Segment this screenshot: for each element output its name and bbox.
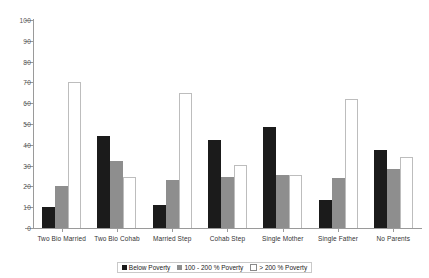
legend-swatch-icon <box>177 265 182 270</box>
bar-group: Married Step <box>145 20 200 228</box>
legend-box: Below Poverty100 - 200 % Poverty> 200 % … <box>117 262 312 273</box>
bar-stack <box>145 20 200 228</box>
y-axis-tick-label: 70 <box>23 79 31 86</box>
y-axis-tick-label: 40 <box>23 141 31 148</box>
legend-item-label: Below Poverty <box>129 264 171 271</box>
bar-6-series-1[interactable] <box>319 200 332 228</box>
bar-group: Cohab Step <box>200 20 255 228</box>
bar-stack <box>89 20 144 228</box>
bar-3-series-2[interactable] <box>166 180 179 228</box>
x-axis-tick-mark <box>117 228 118 232</box>
bar-7-series-3[interactable] <box>400 157 413 228</box>
bar-2-series-3[interactable] <box>123 177 136 228</box>
x-axis-tick-mark <box>283 228 284 232</box>
y-axis-tick-label: 100 <box>20 17 31 24</box>
bar-group: Single Father <box>310 20 365 228</box>
legend-item-label: 100 - 200 % Poverty <box>184 264 243 271</box>
bar-7-series-1[interactable] <box>374 150 387 228</box>
y-axis-tick-label: 20 <box>23 183 31 190</box>
bar-7-series-2[interactable] <box>387 169 400 228</box>
y-axis-tick-label: 80 <box>23 58 31 65</box>
y-axis-tick-label: 0 <box>27 225 31 232</box>
legend-item-2[interactable]: 100 - 200 % Poverty <box>177 264 243 271</box>
bar-1-series-2[interactable] <box>55 186 68 228</box>
bar-5-series-3[interactable] <box>289 175 302 228</box>
x-axis-tick-label: No Parents <box>366 235 421 242</box>
bar-6-series-3[interactable] <box>345 99 358 228</box>
bar-4-series-1[interactable] <box>208 140 221 228</box>
bar-4-series-2[interactable] <box>221 177 234 228</box>
y-axis-tick-label: 50 <box>23 121 31 128</box>
x-axis-tick-mark <box>227 228 228 232</box>
x-axis-tick-label: Single Father <box>310 235 365 242</box>
bar-3-series-3[interactable] <box>179 93 192 228</box>
y-axis-tick-label: 30 <box>23 162 31 169</box>
bar-stack <box>366 20 421 228</box>
y-axis-tick-label: 90 <box>23 37 31 44</box>
bar-1-series-3[interactable] <box>68 82 81 228</box>
legend-item-3[interactable]: > 200 % Poverty <box>250 264 307 271</box>
bar-group: Two Bio Cohab <box>89 20 144 228</box>
bar-5-series-2[interactable] <box>276 175 289 228</box>
bar-2-series-2[interactable] <box>110 161 123 228</box>
legend-swatch-icon <box>122 265 127 270</box>
x-axis-tick-label: Single Mother <box>255 235 310 242</box>
chart-legend: Below Poverty100 - 200 % Poverty> 200 % … <box>0 262 429 273</box>
bar-5-series-1[interactable] <box>263 127 276 228</box>
legend-swatch-icon <box>250 264 257 271</box>
x-axis-tick-label: Two Bio Married <box>34 235 89 242</box>
bar-4-series-3[interactable] <box>234 165 247 228</box>
bar-1-series-1[interactable] <box>42 207 55 228</box>
bar-chart: 0102030405060708090100 Two Bio MarriedTw… <box>0 0 429 278</box>
y-axis-tick-label: 10 <box>23 204 31 211</box>
bar-3-series-1[interactable] <box>153 205 166 228</box>
bar-2-series-1[interactable] <box>97 136 110 228</box>
bar-group-container: Two Bio MarriedTwo Bio CohabMarried Step… <box>34 20 421 228</box>
x-axis-tick-label: Cohab Step <box>200 235 255 242</box>
plot-area: 0102030405060708090100 Two Bio MarriedTw… <box>34 20 421 228</box>
bar-group: Single Mother <box>255 20 310 228</box>
legend-item-label: > 200 % Poverty <box>259 264 307 271</box>
bar-stack <box>200 20 255 228</box>
x-axis-tick-mark <box>62 228 63 232</box>
bar-6-series-2[interactable] <box>332 178 345 228</box>
x-axis-tick-label: Married Step <box>145 235 200 242</box>
legend-item-1[interactable]: Below Poverty <box>122 264 171 271</box>
x-axis-tick-mark <box>393 228 394 232</box>
bar-stack <box>255 20 310 228</box>
bar-group: No Parents <box>366 20 421 228</box>
x-axis-tick-label: Two Bio Cohab <box>89 235 144 242</box>
bar-stack <box>310 20 365 228</box>
x-axis-tick-mark <box>172 228 173 232</box>
bar-stack <box>34 20 89 228</box>
bar-group: Two Bio Married <box>34 20 89 228</box>
y-axis-tick-label: 60 <box>23 100 31 107</box>
x-axis-tick-mark <box>338 228 339 232</box>
